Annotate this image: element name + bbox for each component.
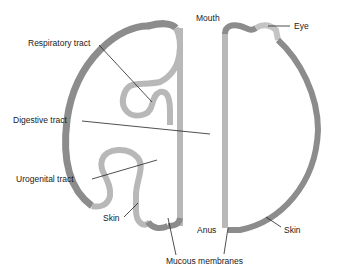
leader-digestive — [82, 121, 210, 134]
label-urogenital-tract: Urogenital tract — [16, 174, 74, 184]
left-top-skin — [148, 24, 176, 28]
eye-surface — [256, 25, 278, 40]
respiratory-tract-loop — [123, 28, 180, 125]
label-eye: Eye — [294, 21, 309, 31]
right-top-skin — [225, 25, 256, 34]
label-skin-right: Skin — [284, 225, 301, 235]
label-mucous-membranes: Mucous membranes — [166, 256, 243, 266]
label-digestive-tract: Digestive tract — [13, 115, 67, 125]
label-mouth: Mouth — [196, 13, 220, 23]
label-anus: Anus — [197, 225, 216, 235]
urogenital-tract-loop — [92, 150, 150, 225]
label-skin-left: Skin — [103, 213, 120, 223]
label-respiratory-tract: Respiratory tract — [28, 38, 90, 48]
right-skin-arc — [228, 40, 318, 230]
digestive-tract-bottom-skin — [148, 222, 168, 228]
leader-mucous-2 — [224, 228, 228, 254]
